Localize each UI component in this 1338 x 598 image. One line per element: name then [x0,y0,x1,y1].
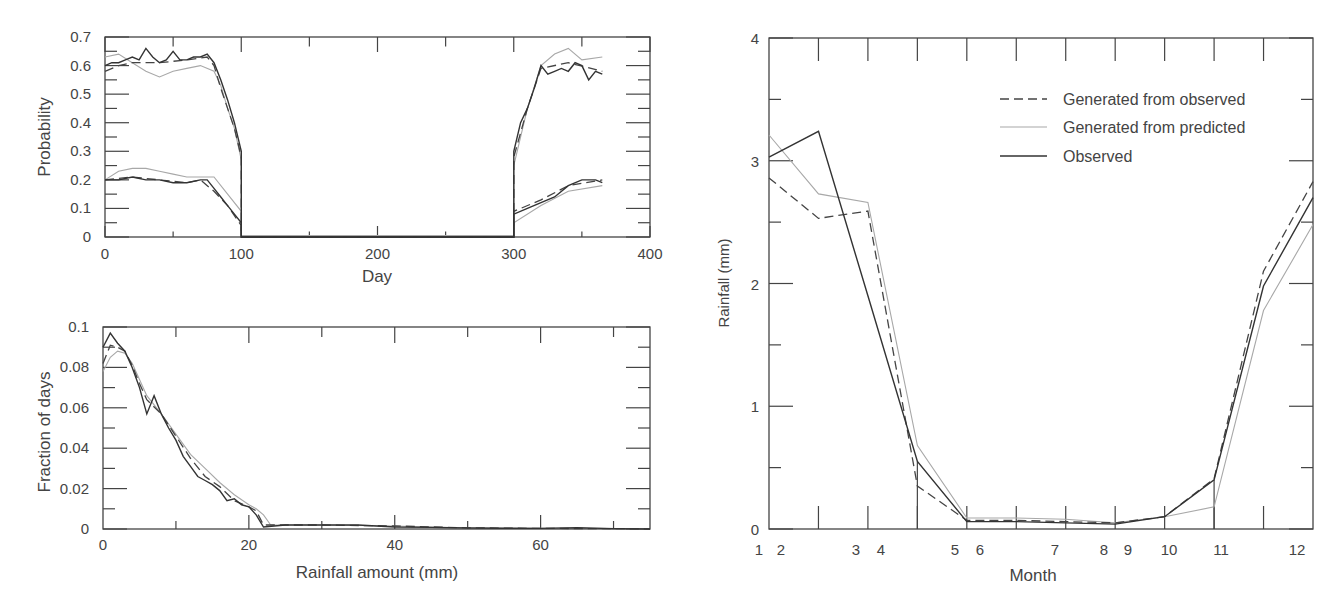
series-line [105,57,602,237]
plot-frame [103,327,650,529]
monthly-rainfall-chart: 01234123456789101112MonthRainfall (mm)Ge… [715,30,1313,585]
y-axis-label: Rainfall (mm) [715,238,732,327]
series-line [105,177,602,237]
y-tick-label: 0.5 [70,85,91,102]
probability-by-day-chart: 010020030040000.10.20.30.40.50.60.7DayPr… [35,28,663,286]
y-axis-label: Probability [35,97,54,177]
month-label: 6 [976,541,984,558]
x-axis-label: Rainfall amount (mm) [296,563,459,582]
series-line [769,178,1313,523]
month-label: 3 [852,541,860,558]
month-label: 4 [877,541,885,558]
y-tick-label: 0.04 [60,439,89,456]
y-tick-label: 0.3 [70,142,91,159]
y-tick-label: 2 [751,276,759,293]
y-tick-label: 0.7 [70,28,91,45]
series-line [105,177,602,237]
series-line [103,333,650,529]
x-tick-label: 300 [501,245,526,262]
month-label: 9 [1124,541,1132,558]
y-tick-label: 0.2 [70,171,91,188]
month-label: 8 [1100,541,1108,558]
y-tick-label: 0.08 [60,358,89,375]
month-label: 2 [777,541,785,558]
x-tick-label: 100 [229,245,254,262]
month-label: 1 [755,541,763,558]
x-tick-label: 400 [637,245,662,262]
month-label: 12 [1289,541,1306,558]
y-tick-label: 0.1 [68,318,89,335]
legend: Generated from observedGenerated from pr… [1000,91,1245,165]
series-line [103,351,650,529]
series-line [769,135,1313,523]
figure-canvas: 010020030040000.10.20.30.40.50.60.7DayPr… [0,0,1338,598]
y-tick-label: 0 [751,521,759,538]
legend-label: Generated from observed [1063,91,1245,108]
x-axis-label: Month [1009,566,1056,585]
legend-label: Observed [1063,148,1132,165]
series-line [769,131,1313,524]
x-tick-label: 60 [532,536,549,553]
month-label: 5 [951,541,959,558]
y-tick-label: 3 [751,153,759,170]
x-tick-label: 200 [365,245,390,262]
y-tick-label: 0.4 [70,114,91,131]
y-tick-label: 0 [83,228,91,245]
legend-label: Generated from predicted [1063,119,1245,136]
y-tick-label: 1 [751,398,759,415]
x-tick-label: 20 [241,536,258,553]
y-tick-label: 0.6 [70,57,91,74]
plot-frame [769,38,1313,529]
y-tick-label: 0.06 [60,399,89,416]
y-tick-label: 0.02 [60,480,89,497]
month-label: 10 [1161,541,1178,558]
y-tick-label: 0 [81,520,89,537]
rainfall-distribution-chart: 020406000.020.040.060.080.1Rainfall amou… [35,318,650,582]
y-tick-label: 0.1 [70,199,91,216]
plot-frame [105,37,650,237]
y-axis-label: Fraction of days [35,372,54,493]
x-tick-label: 0 [99,536,107,553]
month-label: 11 [1213,541,1229,558]
month-label: 7 [1051,541,1059,558]
series-line [105,168,602,237]
y-tick-label: 4 [751,30,759,47]
series-line [103,345,650,529]
x-tick-label: 40 [386,536,403,553]
x-axis-label: Day [362,267,393,286]
x-tick-label: 0 [101,245,109,262]
